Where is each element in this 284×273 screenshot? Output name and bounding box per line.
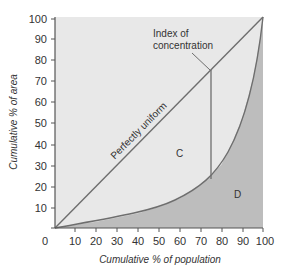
x-tick-10: 10 — [69, 235, 81, 247]
y-tick-labels: 100 90 80 70 60 50 40 30 20 10 — [29, 13, 47, 214]
y-tick-70: 70 — [35, 75, 47, 87]
y-tick-10: 10 — [35, 202, 47, 214]
x-ticks — [75, 228, 263, 232]
x-tick-40: 40 — [132, 235, 144, 247]
y-tick-100: 100 — [29, 13, 47, 25]
index-label-line2: concentration — [153, 40, 213, 51]
x-tick-90: 90 — [237, 235, 249, 247]
lorenz-chart: 100 90 80 70 60 50 40 30 20 10 0 10 20 3… — [0, 0, 284, 273]
x-tick-labels: 0 10 20 30 40 50 60 70 80 90 100 — [42, 235, 274, 247]
y-tick-30: 30 — [35, 160, 47, 172]
y-tick-80: 80 — [35, 54, 47, 66]
x-tick-20: 20 — [90, 235, 102, 247]
y-tick-90: 90 — [35, 33, 47, 45]
y-tick-50: 50 — [35, 117, 47, 129]
origin-label: 0 — [42, 235, 48, 247]
x-tick-100: 100 — [256, 235, 274, 247]
region-d-label: D — [234, 189, 241, 200]
y-tick-40: 40 — [35, 139, 47, 151]
y-tick-60: 60 — [35, 96, 47, 108]
x-axis-title: Cumulative % of population — [99, 254, 221, 265]
y-tick-20: 20 — [35, 181, 47, 193]
region-c-label: C — [176, 148, 183, 159]
x-tick-50: 50 — [153, 235, 165, 247]
x-tick-70: 70 — [195, 235, 207, 247]
index-label-line1: Index of — [153, 28, 189, 39]
y-axis-title: Cumulative % of area — [8, 74, 19, 170]
x-tick-30: 30 — [111, 235, 123, 247]
x-tick-60: 60 — [174, 235, 186, 247]
x-tick-80: 80 — [216, 235, 228, 247]
